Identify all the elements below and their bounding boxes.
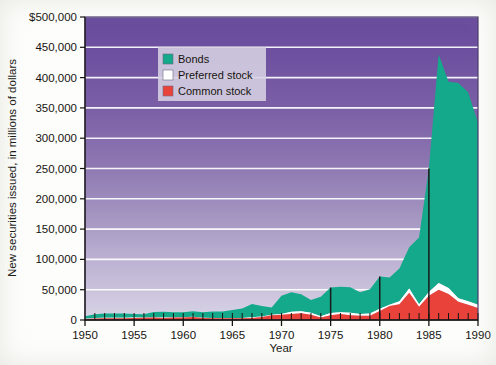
x-tick-label: 1990 bbox=[465, 329, 491, 341]
legend-swatch bbox=[163, 70, 173, 80]
chart-figure: 050,000100,000150,000200,000250,000300,0… bbox=[0, 0, 496, 365]
y-tick-label: 400,000 bbox=[35, 72, 77, 84]
y-tick-label: $500,000 bbox=[29, 11, 77, 23]
y-tick-label: 150,000 bbox=[35, 223, 77, 235]
y-tick-label: 350,000 bbox=[35, 102, 77, 114]
x-tick-label: 1975 bbox=[318, 329, 344, 341]
x-tick-label: 1955 bbox=[121, 329, 147, 341]
y-axis-title: New securities issued, in millions of do… bbox=[6, 59, 18, 277]
y-tick-label: 0 bbox=[71, 314, 77, 326]
y-tick-label: 200,000 bbox=[35, 193, 77, 205]
x-axis-title: Year bbox=[269, 342, 292, 354]
legend-label: Preferred stock bbox=[178, 69, 253, 81]
y-tick-label: 100,000 bbox=[35, 253, 77, 265]
y-tick-label: 250,000 bbox=[35, 163, 77, 175]
x-tick-label: 1980 bbox=[367, 329, 393, 341]
legend-swatch bbox=[163, 86, 173, 96]
legend: BondsPreferred stockCommon stock bbox=[158, 47, 266, 101]
x-tick-label: 1960 bbox=[170, 329, 196, 341]
y-tick-label: 450,000 bbox=[35, 41, 77, 53]
area-chart: 050,000100,000150,000200,000250,000300,0… bbox=[0, 0, 496, 365]
x-tick-label: 1965 bbox=[220, 329, 246, 341]
x-axis-ticks: 195019551960196519701975198019851990 bbox=[72, 320, 491, 341]
legend-label: Bonds bbox=[178, 53, 210, 65]
x-tick-label: 1970 bbox=[269, 329, 295, 341]
y-tick-label: 50,000 bbox=[42, 284, 77, 296]
y-tick-label: 300,000 bbox=[35, 132, 77, 144]
x-tick-label: 1950 bbox=[72, 329, 98, 341]
legend-label: Common stock bbox=[178, 85, 252, 97]
x-tick-label: 1985 bbox=[416, 329, 442, 341]
y-axis-ticks: 050,000100,000150,000200,000250,000300,0… bbox=[29, 11, 85, 326]
legend-swatch bbox=[163, 54, 173, 64]
